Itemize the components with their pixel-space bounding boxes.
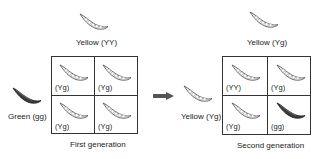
punnett-cell: (Yg) xyxy=(52,57,95,95)
genotype-label: (Yg) xyxy=(271,83,285,92)
pea-pod-icon xyxy=(276,63,306,83)
pea-pod-icon xyxy=(183,84,213,104)
parent-top-label: Yellow (YY) xyxy=(76,38,117,47)
pea-pod-icon xyxy=(231,101,261,121)
punnett-cell: (Yg) xyxy=(268,57,312,95)
genotype-label: (Yg) xyxy=(98,83,112,92)
pea-pod-icon xyxy=(231,63,261,83)
pea-pod-icon xyxy=(59,63,89,83)
punnett-cell: (Yg) xyxy=(95,96,138,134)
first-generation-caption: First generation xyxy=(70,140,126,149)
pea-pod-icon xyxy=(102,63,132,83)
pea-pod-green-icon xyxy=(12,86,42,106)
punnett-cell: (Yg) xyxy=(52,96,95,134)
pea-pod-icon xyxy=(249,10,279,30)
parent-top-label: Yellow (Yg) xyxy=(247,38,287,47)
pea-pod-icon xyxy=(59,101,89,121)
genotype-label: (Yg) xyxy=(55,83,69,92)
genotype-label: (gg) xyxy=(271,122,284,131)
pea-pod-icon xyxy=(79,12,109,32)
genotype-label: (YY) xyxy=(226,83,241,92)
parent-left-label: Green (gg) xyxy=(8,112,47,121)
second-generation-caption: Second generation xyxy=(237,141,304,150)
punnett-cell: (Yg) xyxy=(95,57,138,95)
punnett-cell: (YY) xyxy=(223,57,267,95)
punnett-square-first: (Yg) (Yg) (Yg) (Yg) xyxy=(51,56,138,134)
genotype-label: (Yg) xyxy=(55,122,69,131)
genotype-label: (Yg) xyxy=(98,122,112,131)
parent-left-label: Yellow (Yg) xyxy=(181,112,221,121)
punnett-cell: (Yg) xyxy=(223,96,267,134)
punnett-cell: (gg) xyxy=(268,96,312,134)
arrow-right-icon xyxy=(153,92,175,100)
genotype-label: (Yg) xyxy=(226,122,240,131)
pea-pod-icon xyxy=(102,101,132,121)
pea-pod-green-icon xyxy=(276,101,306,121)
punnett-square-second: (YY) (Yg) (Yg) (gg) xyxy=(222,56,311,135)
